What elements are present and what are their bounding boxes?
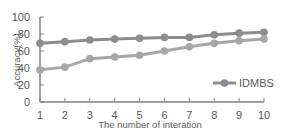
series-marker-2 — [186, 43, 194, 51]
series-marker-2 — [210, 40, 218, 48]
series-marker-2 — [235, 37, 243, 45]
series-marker-2 — [61, 63, 69, 71]
x-tick-label: 2 — [62, 109, 68, 121]
y-tick-label: 0 — [24, 96, 30, 108]
x-axis-label: The number of interation — [98, 119, 202, 130]
series-marker-1 — [61, 38, 69, 46]
series-marker-2 — [36, 66, 44, 74]
legend-marker — [221, 79, 229, 87]
x-tick-label: 8 — [211, 109, 217, 121]
y-tick-label: 100 — [12, 11, 30, 23]
line-chart: 02040608010012345678910The number of int… — [0, 0, 281, 137]
series-marker-2 — [136, 51, 144, 59]
series-marker-1 — [36, 40, 44, 48]
x-tick-label: 1 — [37, 109, 43, 121]
x-tick-label: 10 — [258, 109, 270, 121]
series-marker-2 — [161, 47, 169, 55]
series-marker-1 — [136, 34, 144, 42]
series-marker-1 — [111, 35, 119, 43]
series-marker-2 — [111, 53, 119, 61]
series-line-2 — [40, 39, 264, 70]
series-marker-1 — [161, 34, 169, 42]
series-marker-1 — [86, 36, 94, 44]
chart-canvas: 02040608010012345678910The number of int… — [0, 0, 281, 137]
series-marker-1 — [186, 34, 194, 42]
series-marker-1 — [260, 29, 268, 37]
series-marker-1 — [210, 31, 218, 39]
x-tick-label: 9 — [236, 109, 242, 121]
y-axis-label: Accuracy(%) — [11, 33, 22, 87]
series-marker-1 — [235, 29, 243, 37]
x-tick-label: 3 — [87, 109, 93, 121]
legend-label: IDMBS — [239, 77, 274, 89]
series-marker-2 — [86, 55, 94, 63]
series-marker-2 — [260, 35, 268, 43]
